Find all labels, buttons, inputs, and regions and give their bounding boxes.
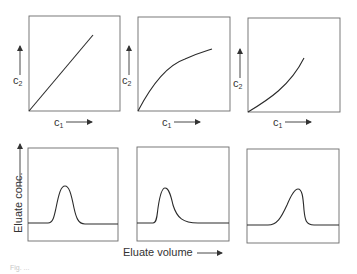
y-axis-label: c2 xyxy=(122,74,132,87)
elution-panel-fronting xyxy=(247,149,339,243)
panel-frame xyxy=(28,148,118,241)
x-axis-label: c1 xyxy=(162,116,172,129)
concave-isotherm-curve xyxy=(248,58,304,112)
isotherm-panel-linear: c2 c1 xyxy=(13,16,120,129)
elution-y-axis: Eluate conc. xyxy=(12,144,24,233)
y-axis-label: c2 xyxy=(13,74,23,87)
panel-frame xyxy=(137,147,229,241)
x-axis-label: Eluate volume xyxy=(123,246,193,258)
elution-panel-tailing xyxy=(137,147,229,241)
convex-isotherm-curve xyxy=(138,49,212,111)
x-axis-label: c1 xyxy=(273,116,283,129)
isotherm-panel-concave: c2 c1 xyxy=(233,18,340,129)
isotherm-panel-convex: c2 c1 xyxy=(122,17,230,129)
elution-panel-symmetric xyxy=(28,148,118,241)
panel-frame xyxy=(248,18,340,112)
fronting-peak-curve xyxy=(247,189,339,225)
elution-x-axis: Eluate volume xyxy=(123,246,222,258)
y-axis-label: c2 xyxy=(233,77,243,90)
tailing-peak-curve xyxy=(137,188,229,223)
linear-isotherm-curve xyxy=(29,35,93,111)
figure-canvas: c2 c1 c2 c1 c2 c1 Eluate conc. Eluate vo xyxy=(0,0,357,274)
y-axis-label: Eluate conc. xyxy=(12,172,24,233)
panel-frame xyxy=(29,16,120,111)
panel-frame xyxy=(138,17,230,111)
x-axis-label: c1 xyxy=(54,116,64,129)
figure-caption: Fig. ... xyxy=(10,264,29,271)
symmetric-peak-curve xyxy=(28,186,118,224)
panel-frame xyxy=(247,149,339,243)
